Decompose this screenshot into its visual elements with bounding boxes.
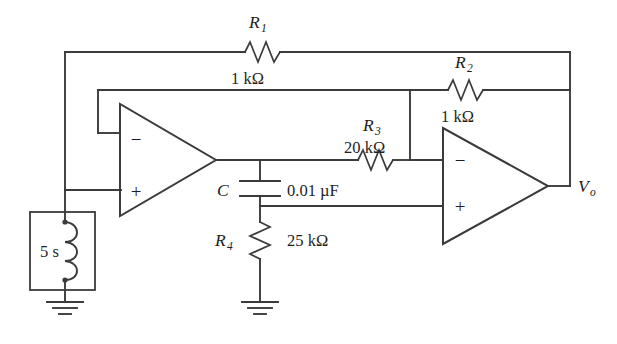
output-name-subscript: o xyxy=(590,186,596,198)
r2-name: R xyxy=(454,52,466,72)
ground-source xyxy=(47,302,83,314)
circuit-diagram: R 1 1 kΩ R 2 1 kΩ − + xyxy=(0,0,617,344)
resistor-r2-zigzag xyxy=(448,80,483,100)
label-c: C 0.01 µF xyxy=(217,180,339,200)
resistor-r1-zigzag xyxy=(245,42,280,62)
source-label: 5 s xyxy=(40,242,59,261)
circuit-schematic-canvas: R 1 1 kΩ R 2 1 kΩ − + xyxy=(0,0,617,344)
label-output-voltage: V o xyxy=(578,176,596,198)
op-amp-1-inverting-sign: − xyxy=(131,129,142,150)
op-amp-2 xyxy=(443,128,548,244)
r1-value: 1 kΩ xyxy=(231,69,264,88)
r1-name: R xyxy=(248,12,260,32)
r2-name-subscript: 2 xyxy=(467,62,473,74)
r4-value: 25 kΩ xyxy=(287,231,328,250)
op-amp-1-noninverting-sign: + xyxy=(131,181,142,202)
label-r3: R 3 20 kΩ xyxy=(344,115,385,157)
r1-name-subscript: 1 xyxy=(261,22,267,34)
ground-r4 xyxy=(242,302,278,314)
label-r1: R 1 1 kΩ xyxy=(231,12,267,88)
r3-name: R xyxy=(362,115,374,135)
r2-value: 1 kΩ xyxy=(441,107,474,126)
label-r4: R 4 25 kΩ xyxy=(214,230,328,252)
inductor-coil xyxy=(65,222,77,280)
r4-name-subscript: 4 xyxy=(227,240,233,252)
r3-name-subscript: 3 xyxy=(374,125,381,137)
op-amp-2-inverting-sign: − xyxy=(455,150,466,171)
c-value: 0.01 µF xyxy=(287,181,339,200)
c-name: C xyxy=(217,180,229,200)
r4-name: R xyxy=(214,230,226,250)
r3-value: 20 kΩ xyxy=(344,138,385,157)
resistor-r4-zigzag xyxy=(250,222,270,259)
op-amp-2-noninverting-sign: + xyxy=(455,196,466,217)
